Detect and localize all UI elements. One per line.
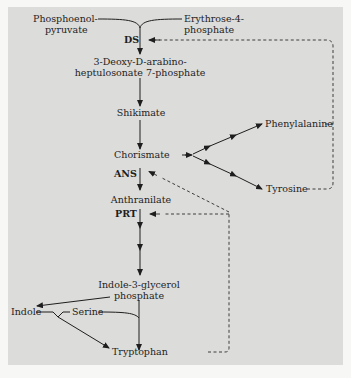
igp-line1: Indole-3-glycerol: [98, 280, 180, 291]
enzyme-prt: PRT: [115, 209, 137, 220]
node-erythrose-4-phosphate: Erythrose-4- phosphate: [184, 14, 244, 35]
dahp-line2: heptulosonate 7-phosphate: [75, 68, 206, 79]
to-phe-step3: [236, 124, 262, 135]
to-phe-step1: [193, 146, 210, 154]
node-chorismate: Chorismate: [114, 150, 170, 161]
to-tyr-step3: [236, 176, 262, 189]
to-tyr-step2: [210, 164, 236, 176]
serine-indole-join: [53, 312, 70, 317]
enzyme-ans: ANS: [114, 169, 137, 180]
enzyme-ds: DS: [124, 35, 139, 46]
node-indole-3-glycerol-phosphate: Indole-3-glycerol phosphate: [98, 280, 180, 301]
indole-serine-tryptophan-arrow: [58, 317, 109, 348]
trp-feedback-line: [208, 214, 229, 352]
node-shikimate: Shikimate: [117, 108, 166, 119]
dahp-line1: 3-Deoxy-D-arabino-: [75, 57, 206, 68]
pep-line1: Phosphoenol-: [33, 14, 98, 25]
to-tyr-step1: [193, 156, 210, 164]
pep-line2: pyruvate: [33, 25, 98, 36]
pep-connector: [98, 19, 140, 28]
serine-connector: [99, 312, 139, 318]
node-tryptophan: Tryptophan: [112, 347, 168, 358]
node-tyrosine: Tyrosine: [266, 184, 308, 195]
node-indole: Indole: [11, 307, 41, 318]
node-phenylalanine: Phenylalanine: [265, 119, 333, 130]
trp-feedback-ans: [162, 178, 229, 212]
node-anthranilate: Anthranilate: [111, 195, 171, 206]
e4p-line1: Erythrose-4-: [184, 14, 244, 25]
node-phosphoenolpyruvate: Phosphoenol- pyruvate: [33, 14, 98, 35]
igp-line2: phosphate: [98, 291, 180, 302]
to-phe-step2: [210, 135, 236, 146]
node-serine: Serine: [72, 307, 103, 318]
node-dahp: 3-Deoxy-D-arabino- heptulosonate 7-phosp…: [75, 57, 206, 78]
e4p-connector: [140, 19, 182, 28]
e4p-line2: phosphate: [184, 25, 244, 36]
